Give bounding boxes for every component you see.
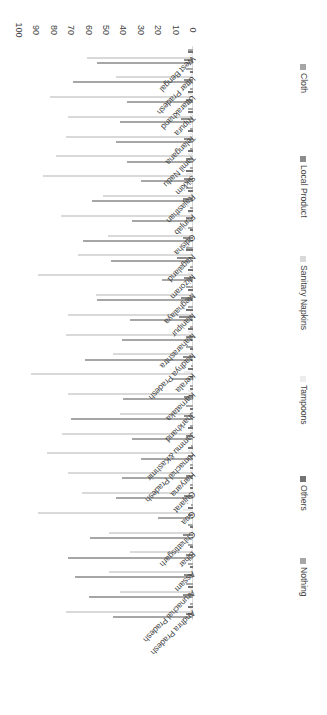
bar[interactable]: [190, 467, 193, 469]
bar[interactable]: [190, 207, 193, 209]
bar[interactable]: [92, 200, 193, 202]
bar-slot: [19, 148, 193, 150]
bar-slot: [19, 495, 193, 497]
bar[interactable]: [120, 413, 193, 415]
bar[interactable]: [75, 576, 193, 578]
bar[interactable]: [66, 136, 193, 138]
bar-slot: [19, 425, 193, 427]
bar[interactable]: [190, 603, 193, 605]
bar-slot: [19, 113, 193, 115]
bar-slot: [19, 504, 193, 506]
bar-slot: [19, 150, 193, 152]
bar-slot: [19, 544, 193, 546]
bar-slot: [19, 489, 193, 491]
bar-slot: [19, 512, 193, 514]
bar[interactable]: [190, 546, 193, 548]
bar[interactable]: [190, 425, 193, 427]
bar-slot: [19, 71, 193, 73]
bar[interactable]: [188, 49, 193, 51]
bar-slot: [19, 346, 193, 348]
bar-slot: [19, 173, 193, 175]
bar-slot: [19, 190, 193, 192]
bar-slot: [19, 569, 193, 571]
legend-item[interactable]: Nothing: [299, 558, 309, 597]
bar-slot: [19, 141, 193, 143]
bar-slot: [19, 291, 193, 293]
bar[interactable]: [83, 240, 193, 242]
bar[interactable]: [188, 51, 193, 53]
bar-slot: [19, 240, 193, 242]
bar-slot: [19, 198, 193, 200]
legend-item[interactable]: Cloth: [299, 64, 309, 93]
bar[interactable]: [191, 445, 193, 447]
legend-item[interactable]: Local Product: [299, 156, 309, 218]
bar-slot: [19, 532, 193, 534]
bar[interactable]: [191, 365, 193, 367]
bar-slot: [19, 396, 193, 398]
legend-item[interactable]: Others: [299, 476, 309, 511]
bar[interactable]: [97, 62, 193, 64]
bar-group: [19, 187, 193, 203]
bar-slot: [19, 326, 193, 328]
bar-slot: [19, 62, 193, 64]
bar-slot: [19, 430, 193, 432]
bar-slot: [19, 200, 193, 202]
bar[interactable]: [90, 537, 193, 539]
bar-slot: [19, 393, 193, 395]
bar-slot: [19, 192, 193, 194]
legend-swatch: [300, 558, 306, 564]
bar-group: [19, 48, 193, 64]
bar-slot: [19, 207, 193, 209]
bar-slot: [19, 260, 193, 262]
bar[interactable]: [188, 269, 193, 271]
bar[interactable]: [191, 504, 193, 506]
bar-slot: [19, 517, 193, 519]
plot-area: [19, 46, 193, 620]
chart-legend: ClothLocal ProductSanitary NapkinsTampoo…: [285, 46, 309, 620]
bar-slot: [19, 49, 193, 51]
bar-slot: [19, 59, 193, 61]
bar-slot: [19, 534, 193, 536]
bar[interactable]: [190, 128, 193, 130]
bar-slot: [19, 336, 193, 338]
bar-slot: [19, 509, 193, 511]
bar[interactable]: [130, 551, 193, 553]
bar-slot: [19, 286, 193, 288]
bar-slot: [19, 339, 193, 341]
bar-slot: [19, 232, 193, 234]
value-tick-label: 0: [188, 27, 198, 32]
bar-slot: [19, 170, 193, 172]
legend-swatch: [300, 156, 306, 162]
bar-slot: [19, 348, 193, 350]
bar-slot: [19, 252, 193, 254]
bar[interactable]: [38, 512, 193, 514]
bar-slot: [19, 606, 193, 608]
bar[interactable]: [188, 368, 193, 370]
bar[interactable]: [68, 393, 193, 395]
bar-slot: [19, 328, 193, 330]
bar[interactable]: [188, 447, 193, 449]
bar-group: [19, 226, 193, 242]
legend-swatch: [300, 64, 306, 70]
legend-item[interactable]: Tampoons: [299, 376, 309, 425]
bar-slot: [19, 167, 193, 169]
bar[interactable]: [109, 571, 193, 573]
bar[interactable]: [87, 57, 193, 59]
value-tick-label: 90: [31, 25, 41, 35]
bar-slot: [19, 596, 193, 598]
bar[interactable]: [109, 532, 193, 534]
bar[interactable]: [89, 596, 193, 598]
bar-slot: [19, 470, 193, 472]
value-tick-label: 60: [84, 25, 94, 35]
bar-slot: [19, 229, 193, 231]
legend-item[interactable]: Sanitary Napkins: [299, 256, 309, 330]
bar[interactable]: [188, 150, 193, 152]
bar-slot: [19, 410, 193, 412]
bar[interactable]: [190, 326, 193, 328]
bar[interactable]: [190, 566, 193, 568]
value-tick-label: 10: [171, 25, 181, 35]
bar[interactable]: [190, 71, 193, 73]
bar[interactable]: [97, 299, 193, 301]
bar-slot: [19, 94, 193, 96]
bar-slot: [19, 247, 193, 249]
